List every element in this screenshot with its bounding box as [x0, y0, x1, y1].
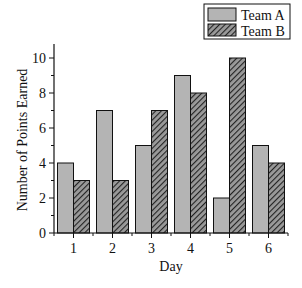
y-tick-label: 0: [39, 226, 46, 241]
y-tick-label: 2: [39, 191, 46, 206]
x-tick-label: 6: [265, 241, 272, 256]
bar-chart: 0246810 123456 Day Number of Points Earn…: [0, 0, 302, 288]
bar-team-a-day-6: [253, 146, 269, 234]
y-tick-label: 10: [32, 51, 46, 66]
legend-swatch-team-a: [208, 8, 236, 21]
x-tick-label: 3: [148, 241, 155, 256]
bars-group: [58, 58, 285, 233]
legend: Team A Team B: [204, 4, 290, 39]
y-axis-label: Number of Points Earned: [15, 69, 30, 212]
bar-team-b-day-2: [113, 181, 129, 234]
bar-team-b-day-6: [269, 163, 285, 233]
y-tick-label: 4: [39, 156, 46, 171]
bar-team-b-day-4: [191, 93, 207, 233]
bar-team-b-day-3: [152, 111, 168, 234]
legend-label-team-b: Team B: [241, 24, 285, 39]
x-ticks-group: 123456: [54, 233, 288, 256]
x-tick-label: 5: [226, 241, 233, 256]
x-axis-label: Day: [159, 259, 182, 274]
bar-team-a-day-3: [136, 146, 152, 234]
y-tick-label: 8: [39, 86, 46, 101]
bar-team-a-day-4: [175, 76, 191, 234]
bar-team-b-day-5: [230, 58, 246, 233]
bar-team-a-day-2: [97, 111, 113, 234]
x-tick-label: 1: [70, 241, 77, 256]
x-tick-label: 2: [109, 241, 116, 256]
bar-team-b-day-1: [74, 181, 90, 234]
bar-team-a-day-5: [214, 198, 230, 233]
legend-label-team-a: Team A: [241, 8, 286, 23]
legend-swatch-team-b: [208, 24, 236, 36]
y-tick-label: 6: [39, 121, 46, 136]
bar-team-a-day-1: [58, 163, 74, 233]
x-tick-label: 4: [187, 241, 194, 256]
y-ticks-group: 0246810: [32, 51, 54, 241]
